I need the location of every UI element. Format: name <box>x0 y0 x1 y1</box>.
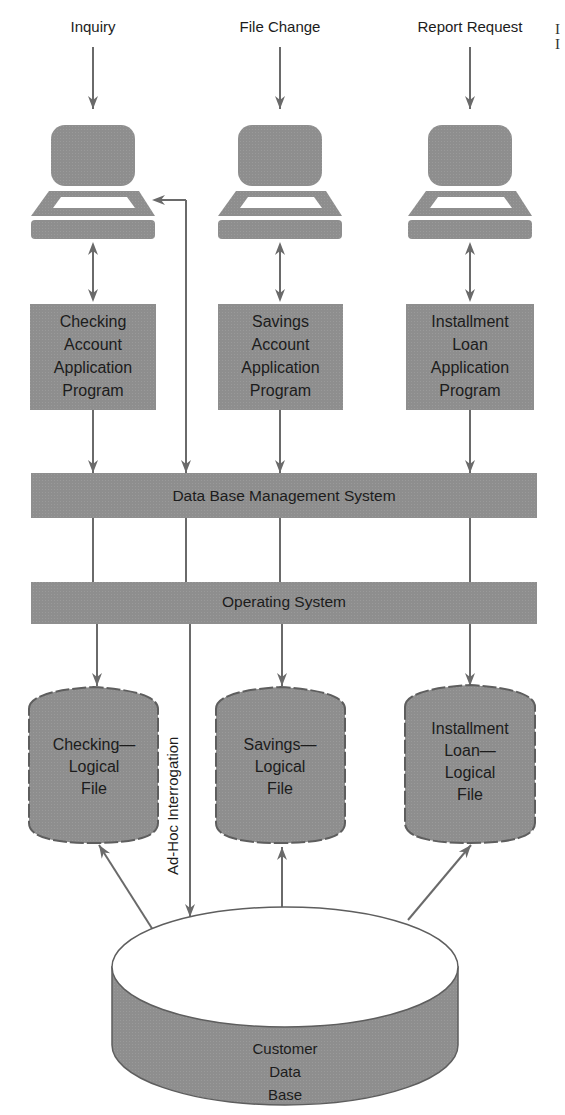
program-line: Checking <box>30 310 156 333</box>
program-line: Application <box>30 356 156 379</box>
os-label: Operating System <box>31 592 537 612</box>
file-line: File <box>216 778 344 800</box>
dbms-label: Data Base Management System <box>31 486 537 506</box>
logical-file-checking[interactable]: Checking— Logical File <box>30 734 158 800</box>
file-line: Loan— <box>405 740 535 762</box>
program-line: Account <box>218 333 343 356</box>
program-line: Program <box>218 379 343 402</box>
program-line: Loan <box>406 333 534 356</box>
terminal-base-icon <box>31 220 155 239</box>
input-label-inquiry: Inquiry <box>70 18 115 36</box>
program-line: Program <box>30 379 156 402</box>
program-line: Savings <box>218 310 343 333</box>
file-line: Logical <box>405 762 535 784</box>
diagram-canvas <box>0 0 565 1115</box>
logical-file-installment-loan[interactable]: Installment Loan— Logical File <box>405 718 535 806</box>
file-line: Logical <box>216 756 344 778</box>
logical-file-savings[interactable]: Savings— Logical File <box>216 734 344 800</box>
db-to-file-arrow <box>99 845 153 930</box>
program-installment-loan[interactable]: Installment Loan Application Program <box>406 310 534 402</box>
corner-marks: I I <box>555 22 565 54</box>
program-line: Installment <box>406 310 534 333</box>
corner-mark: I <box>555 37 565 52</box>
file-line: Checking— <box>30 734 158 756</box>
arrowhead-icon <box>99 845 110 859</box>
database-cylinder-top-icon <box>112 907 458 1027</box>
terminal-keyboard-inset <box>240 197 322 208</box>
input-label-file-change: File Change <box>240 18 321 36</box>
db-line: Customer <box>200 1037 370 1060</box>
file-line: File <box>405 784 535 806</box>
terminal-keyboard-inset <box>430 197 512 208</box>
terminal-screen-icon[interactable] <box>428 125 512 186</box>
db-to-file-arrow <box>408 845 471 920</box>
ad-hoc-interrogation-label: Ad-Hoc Interrogation <box>164 737 182 875</box>
program-line: Application <box>406 356 534 379</box>
db-line: Base <box>200 1083 370 1106</box>
program-line: Account <box>30 333 156 356</box>
file-line: Savings— <box>216 734 344 756</box>
db-line: Data <box>200 1060 370 1083</box>
file-line: Logical <box>30 756 158 778</box>
program-savings-account[interactable]: Savings Account Application Program <box>218 310 343 402</box>
terminal-base-icon <box>218 220 342 239</box>
corner-mark: I <box>555 22 565 37</box>
program-line: Application <box>218 356 343 379</box>
customer-database-label[interactable]: Customer Data Base <box>200 1037 370 1106</box>
file-line: Installment <box>405 718 535 740</box>
program-line: Program <box>406 379 534 402</box>
program-checking-account[interactable]: Checking Account Application Program <box>30 310 156 402</box>
input-label-report-request: Report Request <box>417 18 522 36</box>
file-line: File <box>30 778 158 800</box>
terminal-screen-icon[interactable] <box>51 125 135 186</box>
terminal-keyboard-inset <box>53 197 135 208</box>
terminal-screen-icon[interactable] <box>238 125 322 186</box>
terminal-base-icon <box>408 220 532 239</box>
